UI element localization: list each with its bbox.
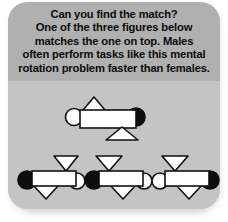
prompt-line-2: One of the three figures below xyxy=(9,21,219,34)
screenshot-canvas: Can you find the match? One of the three… xyxy=(0,0,228,222)
prompt-text: Can you find the match? One of the three… xyxy=(9,8,219,75)
prompt-line-1: Can you find the match? xyxy=(9,8,219,21)
figures-panel xyxy=(8,81,220,209)
puzzle-card: Can you find the match? One of the three… xyxy=(8,2,220,209)
prompt-line-4: often perform tasks like this mental xyxy=(9,48,219,61)
prompt-line-3: matches the one on top. Males xyxy=(9,35,219,48)
prompt-line-5: rotation problem faster than females. xyxy=(9,62,219,75)
